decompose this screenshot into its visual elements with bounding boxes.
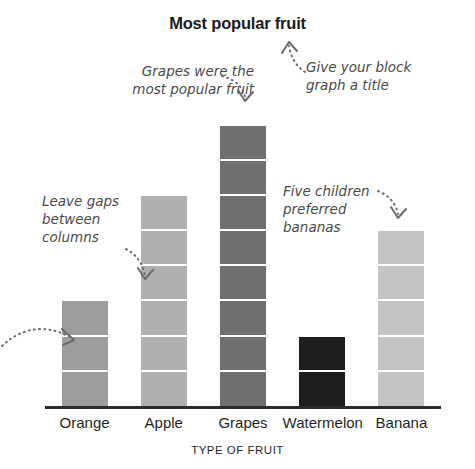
block <box>141 337 187 372</box>
block <box>62 337 108 372</box>
page-title: Most popular fruit <box>0 14 475 33</box>
annotation-leave-gaps-line3: columns <box>42 229 99 245</box>
block <box>220 196 266 231</box>
annotation-give-title-line1: Give your block <box>306 59 411 75</box>
annotation-most-popular-line2: most popular fruit <box>132 81 254 97</box>
block <box>141 301 187 336</box>
annotation-five-children-line1: Five children <box>283 183 370 199</box>
block <box>220 126 266 161</box>
x-axis-line <box>45 406 441 409</box>
annotation-give-title-line2: graph a title <box>306 77 389 93</box>
annotation-leave-gaps-line2: between <box>42 211 100 227</box>
block <box>378 266 424 301</box>
block <box>378 231 424 266</box>
block <box>62 301 108 336</box>
bar-watermelon <box>299 337 345 407</box>
block <box>378 337 424 372</box>
annotation-most-popular-line1: Grapes were the <box>142 63 254 79</box>
block <box>220 301 266 336</box>
x-axis-category-labels: OrangeAppleGrapesWatermelonBanana <box>45 414 441 440</box>
block <box>220 372 266 407</box>
annotation-five-children-line2: preferred <box>283 201 346 217</box>
block <box>220 161 266 196</box>
block <box>299 372 345 407</box>
annotation-five-children: Five children preferred bananas <box>283 182 403 236</box>
block <box>220 337 266 372</box>
x-axis-label-apple: Apple <box>124 414 203 431</box>
bar-banana <box>378 231 424 407</box>
block <box>378 301 424 336</box>
annotation-leave-gaps: Leave gaps between columns <box>42 192 162 246</box>
block-graph-worksheet: Most popular fruit OrangeAppleGrapesWate… <box>0 0 475 469</box>
x-axis-label-orange: Orange <box>45 414 124 431</box>
x-axis-label-banana: Banana <box>362 414 441 431</box>
block <box>220 231 266 266</box>
block <box>378 372 424 407</box>
annotation-give-title: Give your block graph a title <box>306 58 456 94</box>
bar-grapes <box>220 125 266 407</box>
block <box>299 337 345 372</box>
annotation-leave-gaps-line1: Leave gaps <box>42 193 119 209</box>
bar-orange <box>62 301 108 407</box>
x-axis-label-watermelon: Watermelon <box>283 414 362 431</box>
block <box>141 372 187 407</box>
block <box>62 372 108 407</box>
block <box>220 266 266 301</box>
annotation-five-children-line3: bananas <box>283 219 341 235</box>
x-axis-label-grapes: Grapes <box>203 414 282 431</box>
annotation-most-popular: Grapes were the most popular fruit <box>104 62 254 98</box>
block <box>141 266 187 301</box>
x-axis-title: TYPE OF FRUIT <box>0 444 475 456</box>
